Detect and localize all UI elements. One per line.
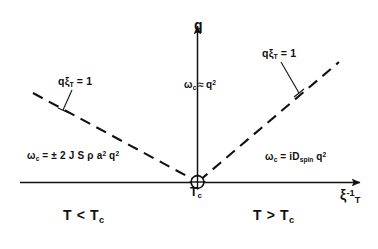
region-label-above-tc: T > Tc	[253, 208, 294, 225]
region-label-below-tc: T < Tc	[63, 208, 104, 225]
right-formula-body: = iD	[277, 151, 299, 162]
right-formula-body-mid: q	[313, 151, 322, 162]
x-axis-label: ξ-1T	[340, 188, 360, 205]
left-callout-q: q	[58, 75, 65, 87]
center-formula-omega: ω	[184, 79, 193, 90]
left-formula-body: = ± 2 J S ρ a	[39, 150, 102, 161]
left-callout-equals-one: = 1	[74, 75, 93, 87]
spin-wave-dispersion-formula: ωc = ± 2 J S ρ a2 q2	[27, 151, 119, 163]
right-callout-equals-one: = 1	[278, 47, 297, 59]
critical-dispersion-formula: ωc≈q2	[184, 80, 216, 92]
right-callout-q: q	[262, 47, 269, 59]
x-axis-label-subscript: T	[355, 195, 361, 205]
right-formula-omega: ω	[265, 151, 274, 162]
center-formula-relation: ≈	[198, 79, 204, 90]
left-formula-omega: ω	[27, 150, 36, 161]
diagram-canvas: q ξ-1T ωc≈q2 ωc = ± 2 J S ρ a2 q2 ωc = i…	[0, 0, 378, 249]
right-formula-spin-subscript: spin	[300, 156, 314, 163]
right-crossover-callout: qξT = 1	[262, 48, 296, 60]
y-axis-label: q	[194, 18, 203, 33]
origin-label-t: T	[190, 185, 198, 199]
left-dashed-boundary	[33, 93, 196, 181]
origin-label-tc: Tc	[190, 186, 202, 201]
left-formula-q-exponent: 2	[115, 150, 119, 157]
diagram-vector-layer	[0, 0, 378, 249]
center-formula-omega-sub: c	[193, 84, 197, 91]
center-formula-q-exponent: 2	[212, 79, 216, 86]
region-left-subscript: c	[99, 215, 104, 225]
left-crossover-callout: qξT = 1	[58, 76, 92, 88]
region-right-subscript: c	[289, 215, 294, 225]
origin-label-c: c	[198, 191, 202, 200]
right-formula-q-exponent: 2	[323, 151, 327, 158]
left-callout-leader-line	[63, 90, 72, 110]
x-axis-label-superscript: -1	[346, 188, 354, 198]
region-left-text: T < T	[63, 207, 99, 223]
right-callout-leader-line	[281, 62, 299, 93]
region-right-text: T > T	[253, 207, 289, 223]
spin-diffusion-dispersion-formula: ωc = iDspin q2	[265, 152, 326, 164]
